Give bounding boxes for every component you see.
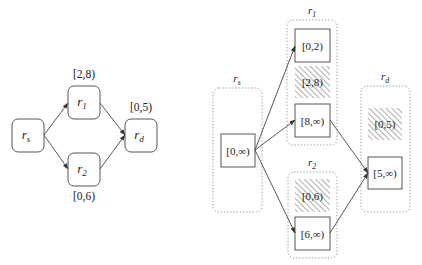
group-r2: r2[0,6)[6,∞) [288, 156, 337, 258]
group-label: r1 [308, 4, 316, 19]
cell-label: [2,8) [302, 76, 323, 89]
cell-label: [0,6) [302, 190, 323, 203]
interval-cell: [0,∞) [221, 134, 255, 167]
cell-label: [8,∞) [301, 115, 325, 128]
group-container [361, 86, 410, 212]
edge-rs-to-r1 [44, 103, 68, 135]
diagram-canvas: rsr1r2rd[2,8)[0,5)[0,6) rs[0,∞)r1[0,2)[2… [0, 0, 422, 265]
cell-label: [0,5) [374, 118, 395, 131]
interval-label-r1: [2,8) [73, 68, 95, 81]
group-label: r2 [308, 156, 316, 171]
cell-label: [0,2) [302, 40, 323, 53]
cell-label: [0,∞) [226, 145, 250, 158]
interval-cell: [8,∞) [295, 104, 330, 137]
node-r2: r2 [68, 153, 100, 186]
group-label: rs [233, 72, 240, 87]
node-rd: rd [125, 119, 157, 152]
edge [255, 150, 295, 233]
edge [330, 173, 368, 233]
group-label: rd [381, 70, 389, 85]
left-graph: rsr1r2rd[2,8)[0,5)[0,6) [12, 68, 157, 203]
group-r1: r1[0,2)[2,8)[8,∞) [287, 4, 337, 145]
edge-r1-to-rd [100, 103, 125, 135]
group-rs: rs[0,∞) [213, 72, 262, 212]
right-graph: rs[0,∞)r1[0,2)[2,8)[8,∞)r2[0,6)[6,∞)rd[0… [213, 4, 410, 258]
node-rs: rs [12, 119, 44, 152]
node-r1: r1 [68, 86, 100, 119]
interval-label-rd: [0,5) [130, 101, 152, 114]
interval-label-r2: [0,6) [73, 190, 95, 203]
group-rd: rd[0,5)[5,∞) [361, 70, 410, 212]
edge [330, 120, 368, 173]
cell-label: [5,∞) [373, 167, 397, 180]
blocked-interval-cell: [0,6) [295, 179, 330, 212]
blocked-interval-cell: [0,5) [368, 108, 402, 140]
edge-r2-to-rd [100, 135, 125, 169]
interval-cell: [5,∞) [368, 157, 402, 189]
interval-cell: [6,∞) [295, 217, 330, 250]
blocked-interval-cell: [2,8) [295, 66, 330, 98]
interval-cell: [0,2) [295, 29, 330, 62]
cell-label: [6,∞) [301, 228, 325, 241]
edge [255, 46, 295, 150]
edge-rs-to-r2 [44, 135, 68, 169]
